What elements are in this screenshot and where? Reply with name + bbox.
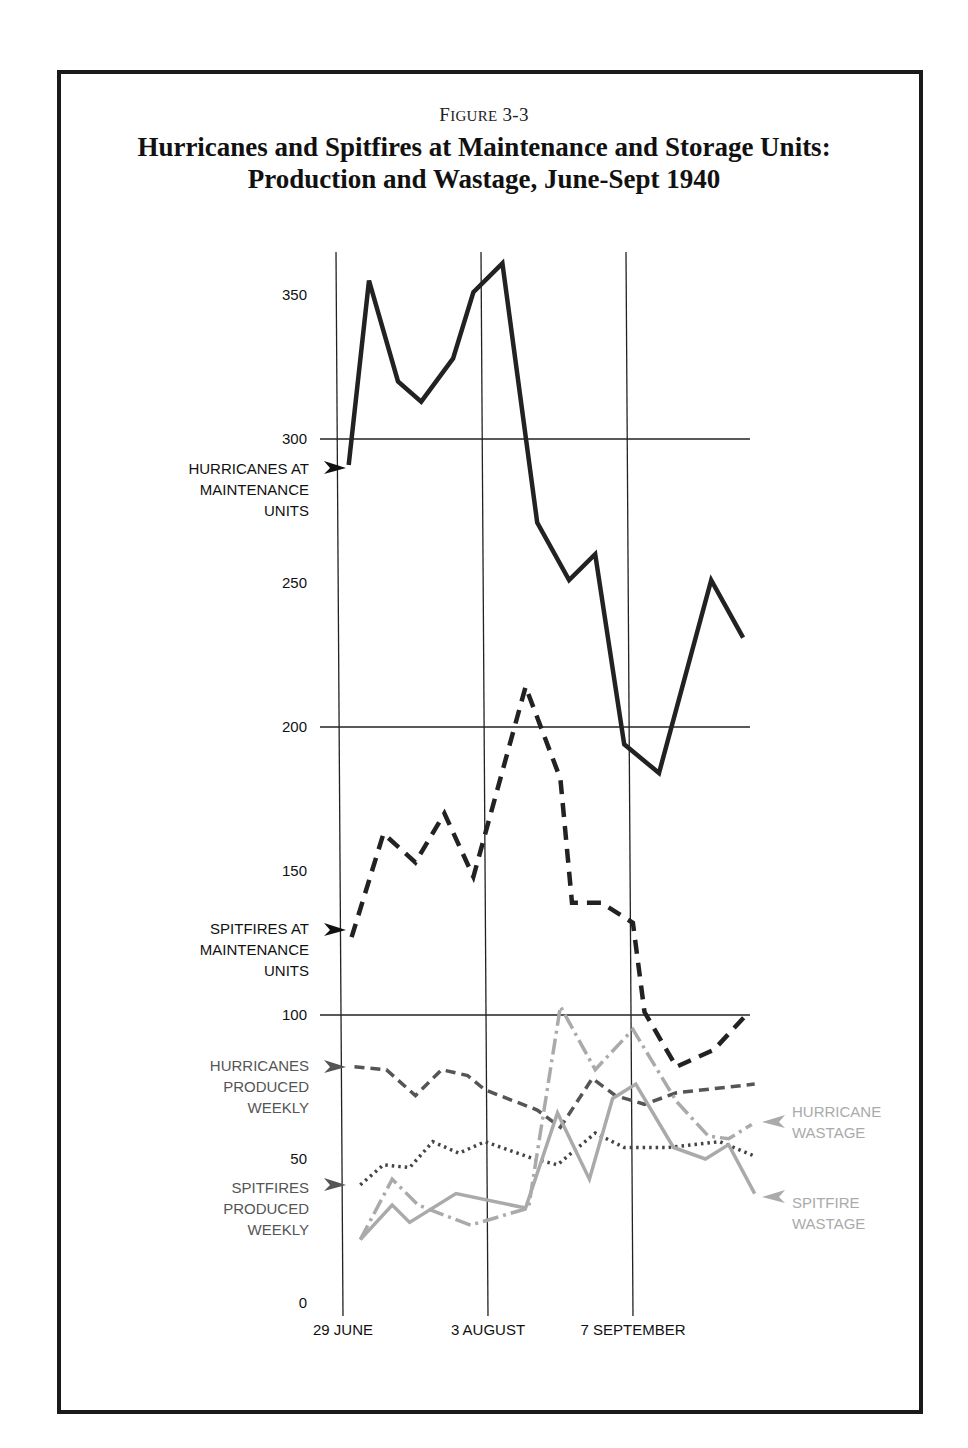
v-grid-line-week-5 (481, 252, 488, 1316)
label-hurricane-wastage-text: HURRICANE (792, 1103, 881, 1120)
label-spitfires-at-maintenance-text: UNITS (264, 962, 309, 979)
x-axis-ticks: 29 JUNE3 AUGUST7 SEPTEMBER (313, 1321, 686, 1338)
label-hurricanes-at-maintenance-text: UNITS (264, 502, 309, 519)
label-spitfires-produced: SPITFIRESPRODUCEDWEEKLY (223, 1178, 346, 1238)
arrow-icon (324, 461, 346, 474)
line-chart: 050100150200250300350 29 JUNE3 AUGUST7 S… (0, 0, 968, 1448)
arrow-icon (324, 1060, 346, 1073)
label-hurricane-wastage: HURRICANEWASTAGE (762, 1103, 881, 1141)
data-series (349, 263, 755, 1239)
label-hurricanes-at-maintenance-text: HURRICANES AT (188, 460, 309, 477)
y-tick-label: 350 (282, 286, 307, 303)
arrow-icon (762, 1115, 785, 1128)
label-spitfires-produced-text: WEEKLY (248, 1221, 309, 1238)
series-line-spitfires-at-maintenance-units (352, 687, 749, 1067)
y-tick-label: 150 (282, 862, 307, 879)
y-tick-label: 250 (282, 574, 307, 591)
series-line-hurricane-wastage (360, 1006, 752, 1239)
series-line-hurricanes-at-maintenance-units (349, 263, 743, 773)
label-spitfires-at-maintenance: SPITFIRES ATMAINTENANCEUNITS (200, 920, 346, 979)
label-spitfire-wastage-text: WASTAGE (792, 1215, 865, 1232)
arrow-icon (762, 1190, 785, 1203)
y-tick-label: 200 (282, 718, 307, 735)
series-line-spitfire-wastage (360, 1084, 754, 1240)
x-tick-label: 29 JUNE (313, 1321, 373, 1338)
label-spitfire-wastage-text: SPITFIRE (792, 1194, 860, 1211)
label-hurricanes-at-maintenance-text: MAINTENANCE (200, 481, 309, 498)
x-tick-label: 7 SEPTEMBER (580, 1321, 685, 1338)
arrow-icon (324, 923, 346, 936)
label-spitfire-wastage: SPITFIREWASTAGE (762, 1190, 865, 1232)
y-tick-label: 50 (290, 1150, 307, 1167)
label-spitfires-at-maintenance-text: SPITFIRES AT (210, 920, 309, 937)
label-hurricanes-at-maintenance: HURRICANES ATMAINTENANCEUNITS (188, 460, 346, 519)
v-grid-line-week-0 (336, 252, 343, 1316)
label-hurricanes-produced-text: WEEKLY (248, 1099, 309, 1116)
label-spitfires-produced-text: PRODUCED (223, 1200, 309, 1217)
label-hurricanes-produced: HURRICANESPRODUCEDWEEKLY (210, 1057, 346, 1116)
v-grid-line-week-10 (626, 252, 633, 1316)
label-hurricane-wastage-text: WASTAGE (792, 1124, 865, 1141)
x-tick-label: 3 AUGUST (451, 1321, 525, 1338)
label-spitfires-produced-text: SPITFIRES (231, 1179, 309, 1196)
series-line-spitfires-produced-weekly (360, 1133, 754, 1185)
y-tick-label: 0 (299, 1294, 307, 1311)
label-hurricanes-produced-text: HURRICANES (210, 1057, 309, 1074)
label-spitfires-at-maintenance-text: MAINTENANCE (200, 941, 309, 958)
y-tick-label: 300 (282, 430, 307, 447)
label-hurricanes-produced-text: PRODUCED (223, 1078, 309, 1095)
y-tick-label: 100 (282, 1006, 307, 1023)
y-axis-ticks: 050100150200250300350 (282, 286, 307, 1311)
